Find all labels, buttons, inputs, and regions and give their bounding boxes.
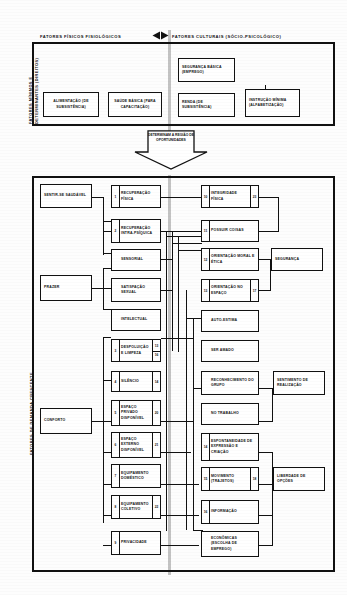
- connector: [103, 337, 104, 523]
- box-label: INTELECTUAL: [112, 317, 160, 322]
- box-no-trabalho: NO TRABALHO: [201, 403, 259, 425]
- box-intelectual: INTELECTUAL: [111, 309, 161, 331]
- box-seguranca-basica: SEGURANÇA BÁSICA (EMPREGO): [178, 58, 235, 82]
- box-economicas-escolha-emprego: ECONÔMICAS (ESCOLHA DE EMPREGO): [201, 531, 259, 557]
- connector: [172, 243, 202, 244]
- box-liberdade-de-opcoes: LIBERDADE DE OPÇÕES: [273, 467, 325, 491]
- box-orientacao-moral-etica: 12 ORIENTAÇÃO MORAL E ÉTICA: [201, 248, 259, 271]
- connector: [103, 288, 111, 289]
- box-label: SEGURANÇA: [272, 257, 322, 262]
- box-number-left: 6: [112, 433, 120, 457]
- connector: [103, 484, 111, 485]
- connector: [178, 236, 179, 352]
- box-conforto: CONFORTO: [40, 408, 92, 434]
- box-satisfacao-sexual: SATISFAÇÃO SEXUAL: [111, 278, 161, 302]
- box-label: SATISFAÇÃO SEXUAL: [112, 285, 160, 295]
- box-label: NO TRABALHO: [202, 411, 258, 416]
- double-arrow-horizontal-icon: [152, 31, 169, 40]
- connector: [103, 231, 104, 255]
- box-number-right: 18: [250, 468, 258, 490]
- box-label: ORIENTAÇÃO MORAL E ÉTICA: [202, 254, 258, 264]
- box-label: CONFORTO: [41, 418, 91, 423]
- box-espaco-externo-disponivel: 6 ESPAÇO EXTERNO DISPONÍVEL 21: [111, 432, 161, 458]
- box-orientacao-no-espaco: 13 ORIENTAÇÃO NO ESPAÇO 17: [201, 279, 259, 302]
- box-label: SENSORIAL: [112, 257, 160, 262]
- connector: [259, 545, 273, 546]
- box-number-left: 7: [112, 465, 120, 487]
- connector: [186, 290, 187, 530]
- connector: [103, 515, 111, 516]
- determinam-arrow: DETERMINAM A REGIÃO DE OPORTUNIDADES: [134, 130, 208, 170]
- connector: [103, 421, 111, 422]
- box-label: POSSUIR COISAS: [202, 228, 258, 233]
- connector: [103, 545, 111, 546]
- box-label: ALIMENTAÇÃO (DE SUBSISTÊNCIA): [44, 99, 98, 109]
- box-reconhecimento-do-grupo: RECONHECIMENTO DO GRUPO: [201, 371, 259, 395]
- connector: [103, 197, 104, 232]
- connector: [178, 250, 202, 251]
- box-sensorial: SENSORIAL: [111, 249, 161, 271]
- box-label: LIBERDADE DE OPÇÕES: [274, 474, 324, 484]
- box-number-left: 14: [202, 434, 210, 460]
- box-ser-amado: SER AMADO: [201, 340, 259, 362]
- box-equipamento-domestico: 7 EQUIPAMENTO DOMÉSTICO: [111, 464, 161, 488]
- box-number-left: 13: [202, 280, 210, 301]
- box-label: SENTIMENTO DE REALIZAÇÃO: [274, 378, 324, 388]
- box-number-right: 23: [250, 186, 258, 207]
- connector: [259, 452, 273, 453]
- box-number-left: 12: [202, 249, 210, 270]
- box-number-left: 9: [112, 532, 120, 554]
- connector: [161, 545, 199, 546]
- box-recuperacao-intra-psiquica: 2 RECUPERAÇÃO INTRA-PSÍQUICA: [111, 219, 161, 243]
- box-number-right: 22: [152, 496, 160, 518]
- box-label: RENDA (DE SUBSISTÊNCIA): [179, 100, 234, 110]
- box-privacidade: 9 PRIVACIDADE: [111, 531, 161, 555]
- box-espontaneidade-expressao-criacao: 14 ESPONTANEIDADE DE EXPRESSÃO E CRIAÇÃO: [201, 433, 259, 461]
- box-number-right-secondary: 16: [152, 349, 160, 361]
- box-number-left: 5: [112, 401, 120, 425]
- box-possuir-coisas: 11 POSSUIR COISAS: [201, 220, 259, 242]
- box-prazer: PRAZER: [40, 275, 92, 301]
- connector: [259, 197, 279, 198]
- box-recuperacao-fisica: 1 RECUPERAÇÃO FÍSICA: [111, 185, 161, 208]
- box-number-left: 15: [202, 468, 210, 490]
- connector: [259, 421, 273, 422]
- box-number-right: 17: [250, 280, 258, 301]
- connector: [186, 318, 202, 319]
- box-number-left: 10: [202, 186, 210, 207]
- box-label: AUTO-ESTIMA: [202, 318, 258, 323]
- connector: [272, 484, 273, 546]
- box-instrucao-minima: INSTRUÇÃO MÍNIMA (ALFABETIZAÇÃO): [245, 89, 300, 117]
- box-number-right: 21: [152, 433, 160, 457]
- connector: [103, 268, 111, 269]
- diagram-page: FATORES FÍSICOS FISIOLÓGICOS FATORES CUL…: [0, 0, 347, 595]
- connector: [166, 231, 167, 531]
- box-label: SAÚDE BÁSICA (PARA CAPACITAÇÃO): [109, 99, 161, 109]
- connector: [161, 197, 201, 198]
- box-movimento-trajetos: 15 MOVIMENTO (TRAJETOS) 18: [201, 467, 259, 491]
- box-label: SER AMADO: [202, 348, 258, 353]
- box-espaco-privado-disponivel: 5 ESPAÇO PRIVADO DISPONÍVEL 20: [111, 400, 161, 426]
- connector: [166, 236, 202, 237]
- box-number-right: 14: [152, 372, 160, 391]
- box-sentir-se-saudavel: SENTIR-SE SAUDÁVEL: [40, 184, 92, 208]
- box-label: INSTRUÇÃO MÍNIMA (ALFABETIZAÇÃO): [246, 98, 299, 108]
- box-alimentacao: ALIMENTAÇÃO (DE SUBSISTÊNCIA): [43, 92, 99, 117]
- connector: [103, 337, 111, 338]
- box-number-left: 1: [112, 186, 120, 207]
- box-label: INFORMAÇÃO: [202, 509, 258, 514]
- box-label: ECONÔMICAS (ESCOLHA DE EMPREGO): [202, 536, 258, 551]
- box-number-right: 20: [152, 401, 160, 425]
- determinam-arrow-label: DETERMINAM A REGIÃO DE OPORTUNIDADES: [134, 133, 208, 144]
- box-number-left: 3: [112, 340, 120, 361]
- box-label: ESPONTANEIDADE DE EXPRESSÃO E CRIAÇÃO: [202, 439, 258, 454]
- box-number-left: 2: [112, 220, 120, 242]
- connector: [259, 388, 273, 389]
- box-auto-estima: AUTO-ESTIMA: [201, 310, 259, 332]
- connector: [259, 231, 279, 232]
- box-number-left: 16: [202, 501, 210, 523]
- top-panel-side-label: FATORES MÍNIMOS E DETERMINANTES (DIREITO…: [28, 44, 40, 124]
- box-silencio: 4 SILÊNCIO 14: [111, 371, 161, 392]
- connector: [103, 452, 111, 453]
- box-number-left: 11: [202, 221, 210, 241]
